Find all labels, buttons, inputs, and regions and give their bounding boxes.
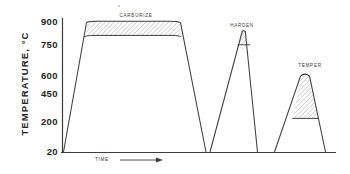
arrow-right-icon	[120, 158, 163, 163]
temper-step	[275, 74, 326, 152]
carburize-step	[64, 21, 207, 152]
heat-treatment-cycle-figure: TEMPERATURE, °C 900 750 600 450 200 20 C…	[0, 0, 350, 174]
harden-step	[210, 31, 258, 152]
carburize-hold-lower-edge	[84, 35, 181, 36]
harden-profile	[210, 31, 258, 152]
harden-hatched-tip	[238, 31, 250, 45]
carburize-hatched-band	[87, 21, 181, 36]
carburize-profile-upper	[64, 21, 207, 152]
chart-plot-svg	[0, 0, 350, 174]
